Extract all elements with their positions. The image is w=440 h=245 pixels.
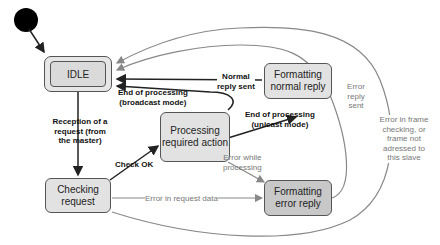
- label-normal-reply-sent: Normalreply sent: [217, 72, 255, 91]
- state-formatting-normal-reply: Formattingnormal reply: [264, 63, 332, 99]
- label-error-reply-sent: Errorreplysent: [345, 82, 367, 111]
- label-end-unicast: End of processing(unicast mode): [245, 110, 315, 129]
- label-check-ok: Check OK: [115, 160, 153, 170]
- label-reception: Reception of arequest (fromthe master): [50, 117, 110, 146]
- state-processing-required-action: Processingrequired action: [160, 112, 230, 162]
- label-error-while-processing: Error whileprocessing: [223, 153, 262, 172]
- label-error-frame: Error in framechecking, orframe notadres…: [373, 115, 435, 163]
- state-formatting-error-reply: Formattingerror reply: [264, 180, 332, 216]
- label-end-broadcast: End of processing(broadcast mode): [118, 88, 188, 107]
- state-idle-label: IDLE: [50, 61, 106, 87]
- label-error-request-data: Error in request data: [145, 194, 218, 204]
- state-checking-request: Checkingrequest: [45, 178, 111, 213]
- initial-state-dot: [14, 8, 38, 32]
